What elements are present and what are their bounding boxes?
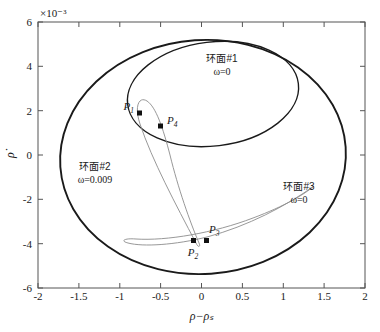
marked-point-p1-marker bbox=[137, 111, 142, 116]
xtick-label-1: -1.5 bbox=[70, 290, 88, 302]
marked-point-p3-marker bbox=[204, 238, 209, 243]
x-axis-ticks bbox=[38, 22, 365, 288]
marked-point-p3: P3 bbox=[204, 223, 220, 243]
marked-point-p4-label: P4 bbox=[166, 114, 178, 129]
annotation-torus3-omega: ω=0 bbox=[290, 194, 307, 205]
xtick-label-3: -0.5 bbox=[152, 290, 170, 302]
xtick-label-5: 0.5 bbox=[236, 290, 250, 302]
xtick-label-2: -1 bbox=[115, 290, 124, 302]
annotation-torus1-omega: ω=0 bbox=[213, 66, 230, 77]
annotation-torus2-omega: ω=0.009 bbox=[78, 174, 113, 185]
annotation-torus1: 环面#1 ω=0 bbox=[206, 53, 238, 77]
ytick-label-4: 2 bbox=[27, 105, 33, 117]
annotation-torus3-name: 环面#3 bbox=[283, 181, 315, 192]
ytick-label-6: 6 bbox=[27, 16, 33, 28]
marked-point-p4-marker bbox=[158, 124, 163, 129]
annotation-torus1-name: 环面#1 bbox=[206, 53, 238, 64]
y-axis-title: ρ̇ bbox=[3, 148, 17, 159]
y-axis-exponent-label: ×10⁻³ bbox=[40, 7, 67, 19]
marked-point-p3-label: P3 bbox=[208, 223, 220, 238]
ytick-label-5: 4 bbox=[27, 60, 33, 72]
xtick-label-6: 1 bbox=[281, 290, 287, 302]
ytick-label-2: -2 bbox=[23, 193, 32, 205]
xtick-label-0: -2 bbox=[33, 290, 42, 302]
x-axis-title: ρ−ρₛ bbox=[189, 309, 215, 323]
marked-point-p4: P4 bbox=[158, 114, 178, 129]
annotation-torus2: 环面#2 ω=0.009 bbox=[78, 161, 113, 185]
ytick-label-1: -4 bbox=[23, 238, 33, 250]
y-axis-ticks bbox=[38, 22, 365, 288]
ytick-label-3: 0 bbox=[27, 149, 33, 161]
annotation-torus3: 环面#3 ω=0 bbox=[283, 181, 315, 205]
marked-point-p2-label: P2 bbox=[187, 246, 199, 261]
xtick-label-7: 1.5 bbox=[317, 290, 331, 302]
phase-portrait-figure: -2 -1.5 -1 -0.5 0 0.5 1 1.5 2 -6 -4 -2 0… bbox=[0, 0, 380, 332]
annotation-torus2-name: 环面#2 bbox=[79, 161, 111, 172]
marked-point-p2-marker bbox=[191, 238, 196, 243]
marked-point-p1-label: P1 bbox=[123, 100, 134, 115]
ytick-label-0: -6 bbox=[23, 282, 33, 294]
xtick-label-4: 0 bbox=[199, 290, 205, 302]
plot-canvas: -2 -1.5 -1 -0.5 0 0.5 1 1.5 2 -6 -4 -2 0… bbox=[0, 0, 380, 332]
plot-frame bbox=[38, 22, 365, 288]
xtick-label-8: 2 bbox=[362, 290, 368, 302]
curve-outer-torus-boundary bbox=[52, 30, 354, 283]
